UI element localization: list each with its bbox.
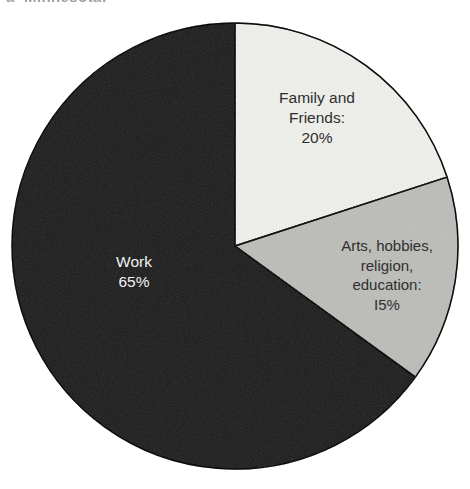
pie-chart-page: a Minnesota: (0, 0, 470, 489)
pie-chart: Family and Friends: 20% Arts, hobbies, r… (0, 0, 470, 489)
pie-chart-svg (0, 0, 470, 489)
pie-slices (12, 23, 458, 469)
